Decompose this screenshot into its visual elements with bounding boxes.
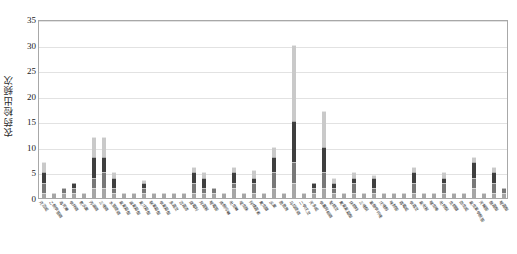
bar-segment bbox=[492, 172, 497, 182]
bar-segment bbox=[42, 172, 47, 182]
bar bbox=[402, 193, 407, 198]
bar bbox=[122, 193, 127, 198]
y-axis-tick: 30 bbox=[27, 41, 36, 51]
bar-segment bbox=[292, 162, 297, 182]
bar-segment bbox=[332, 193, 337, 198]
bar-segment bbox=[92, 157, 97, 177]
bar-segment bbox=[192, 183, 197, 193]
bar-segment bbox=[102, 172, 107, 187]
bar bbox=[142, 180, 147, 198]
bar-segment bbox=[242, 193, 247, 198]
bar-segment bbox=[102, 188, 107, 198]
bar-segment bbox=[272, 157, 277, 172]
bar bbox=[252, 170, 257, 198]
bar bbox=[82, 193, 87, 198]
bar-segment bbox=[472, 162, 477, 177]
bar-segment bbox=[92, 137, 97, 157]
bar bbox=[292, 45, 297, 198]
bar bbox=[242, 193, 247, 198]
y-axis-tick-labels: 05101520253035 bbox=[14, 0, 36, 254]
y-axis-tick: 15 bbox=[27, 117, 36, 127]
bar-segment bbox=[72, 193, 77, 198]
bar bbox=[432, 193, 437, 198]
bar bbox=[232, 167, 237, 198]
chart-root: 农药检出频次 05101520253035 克百威乙酰甲胺磷毒死蜱甲拌磷氧乐果丙… bbox=[0, 0, 517, 254]
bar-segment bbox=[362, 193, 367, 198]
bar bbox=[452, 193, 457, 198]
bar-segment bbox=[152, 193, 157, 198]
bar bbox=[352, 172, 357, 198]
bar bbox=[112, 172, 117, 198]
bar bbox=[392, 193, 397, 198]
y-axis-tick: 5 bbox=[32, 168, 37, 178]
bar-segment bbox=[292, 121, 297, 162]
bar bbox=[502, 188, 507, 198]
bar-segment bbox=[42, 183, 47, 193]
bar bbox=[492, 167, 497, 198]
bar bbox=[472, 157, 477, 198]
bar-segment bbox=[472, 188, 477, 198]
bar-segment bbox=[292, 45, 297, 122]
bar-segment bbox=[42, 193, 47, 198]
bar-segment bbox=[102, 157, 107, 172]
bar-segment bbox=[162, 193, 167, 198]
bar bbox=[62, 188, 67, 198]
bar bbox=[282, 193, 287, 198]
bar-segment bbox=[232, 172, 237, 182]
bar-segment bbox=[232, 188, 237, 198]
bar bbox=[192, 167, 197, 198]
bar-segment bbox=[312, 193, 317, 198]
bar bbox=[382, 193, 387, 198]
bar-segment bbox=[92, 178, 97, 188]
bar bbox=[172, 193, 177, 198]
bar bbox=[442, 172, 447, 198]
bar-segment bbox=[192, 193, 197, 198]
bar-segment bbox=[372, 193, 377, 198]
bar-segment bbox=[292, 183, 297, 198]
y-axis-tick: 0 bbox=[32, 194, 37, 204]
bar-segment bbox=[252, 183, 257, 193]
bar-segment bbox=[392, 193, 397, 198]
plot-area bbox=[38, 20, 508, 199]
bar-segment bbox=[462, 193, 467, 198]
bar-segment bbox=[282, 193, 287, 198]
bar-segment bbox=[322, 111, 327, 147]
bar-segment bbox=[472, 178, 477, 188]
bar-segment bbox=[352, 193, 357, 198]
bar-segment bbox=[202, 193, 207, 198]
bar-segment bbox=[422, 193, 427, 198]
bar-segment bbox=[322, 188, 327, 198]
bar-segment bbox=[322, 172, 327, 187]
bar-segment bbox=[112, 193, 117, 198]
bar-segment bbox=[372, 178, 377, 188]
x-axis-tick: 乐果 bbox=[268, 200, 276, 209]
bar-segment bbox=[172, 193, 177, 198]
bar-segment bbox=[112, 178, 117, 188]
bar-segment bbox=[202, 178, 207, 188]
bar-segment bbox=[272, 147, 277, 157]
bar bbox=[42, 162, 47, 198]
bar bbox=[52, 193, 57, 198]
bar-segment bbox=[382, 193, 387, 198]
bar bbox=[272, 147, 277, 198]
bar-segment bbox=[432, 193, 437, 198]
bar-segment bbox=[322, 147, 327, 173]
bar-segment bbox=[442, 183, 447, 193]
bar-segment bbox=[452, 193, 457, 198]
bar-segment bbox=[402, 193, 407, 198]
bar-segment bbox=[82, 193, 87, 198]
bar bbox=[202, 172, 207, 198]
bar bbox=[332, 178, 337, 198]
bar bbox=[152, 193, 157, 198]
bar bbox=[342, 193, 347, 198]
bar bbox=[422, 193, 427, 198]
bar bbox=[212, 188, 217, 198]
bar-segment bbox=[122, 193, 127, 198]
bar-segment bbox=[252, 170, 257, 178]
bar-segment bbox=[412, 193, 417, 198]
bar bbox=[482, 193, 487, 198]
bar bbox=[162, 193, 167, 198]
bar-segment bbox=[182, 193, 187, 198]
bar-segment bbox=[442, 193, 447, 198]
bar-segment bbox=[482, 193, 487, 198]
